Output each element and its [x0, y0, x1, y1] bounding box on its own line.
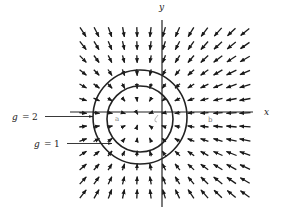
field-arrow-icon — [214, 139, 223, 142]
field-arrow-icon — [188, 27, 194, 36]
field-arrow-icon — [188, 139, 195, 142]
field-arrow-icon — [108, 190, 111, 199]
field-arrow-icon — [163, 41, 166, 50]
field-arrow-icon — [150, 190, 151, 199]
field-arrow-icon — [175, 177, 179, 184]
field-arrow-icon — [240, 126, 251, 127]
field-arrow-icon — [150, 151, 152, 156]
field-arrow-icon — [240, 84, 251, 87]
field-arrow-icon — [162, 70, 165, 76]
field-arrow-icon — [108, 84, 112, 89]
field-arrow-icon — [123, 177, 125, 185]
field-arrow-icon — [163, 190, 166, 199]
field-arrow-icon — [201, 151, 209, 155]
field-arrow-icon — [149, 98, 151, 102]
field-arrow-icon — [175, 126, 181, 127]
field-arrow-icon — [94, 84, 100, 88]
field-arrow-icon — [188, 126, 195, 127]
field-arrow-icon — [108, 177, 112, 185]
field-arrow-icon — [201, 177, 208, 184]
field-arrow-icon — [226, 126, 236, 127]
field-arrow-icon — [213, 126, 222, 127]
field-arrow-icon — [201, 190, 208, 198]
field-arrow-icon — [175, 190, 179, 199]
field-arrow-icon — [162, 164, 165, 170]
field-arrow-icon — [240, 99, 251, 101]
field-arrow-icon — [241, 29, 250, 36]
field-arrow-icon — [188, 177, 194, 184]
field-arrow-icon — [214, 56, 223, 63]
field-arrow-icon — [123, 27, 125, 37]
field-arrow-icon — [108, 41, 112, 49]
field-arrow-icon — [226, 139, 236, 141]
field-arrow-icon — [240, 113, 251, 114]
label-g2-var: g — [12, 112, 18, 122]
field-arrow-icon — [201, 164, 208, 170]
field-arrow-icon — [122, 151, 124, 156]
field-arrow-icon — [94, 177, 99, 184]
field-arrow-icon — [163, 27, 166, 37]
field-arrow-icon — [214, 98, 223, 100]
label-g2: g = 2 — [12, 112, 93, 122]
field-arrow-icon — [80, 177, 87, 184]
field-arrow-icon — [240, 178, 249, 184]
field-arrow-icon — [227, 42, 236, 49]
field-arrow-icon — [137, 138, 138, 142]
field-arrow-icon — [227, 56, 236, 62]
field-arrow-icon — [188, 151, 194, 155]
field-arrow-icon — [201, 28, 208, 37]
field-arrow-icon — [149, 125, 152, 127]
field-arrow-icon — [188, 70, 194, 76]
y-axis-label: y — [158, 2, 165, 12]
field-arrow-icon — [163, 55, 166, 62]
field-arrow-icon — [188, 190, 194, 199]
field-arrow-icon — [227, 191, 235, 198]
field-arrow-icon — [150, 138, 152, 142]
field-arrow-icon — [94, 151, 100, 156]
field-arrow-icon — [175, 41, 179, 49]
label-g1-var: g — [34, 139, 40, 149]
field-arrow-icon — [79, 98, 86, 100]
point-label-a: a — [115, 115, 119, 123]
field-arrow-icon — [240, 70, 250, 74]
field-arrow-icon — [94, 56, 99, 63]
x-axis-label: x — [264, 107, 269, 117]
field-arrow-icon — [80, 56, 87, 63]
field-arrow-icon — [201, 139, 209, 142]
field-arrow-icon — [94, 27, 99, 37]
field-arrow-icon — [80, 164, 87, 170]
field-arrow-icon — [201, 126, 209, 127]
origin-mark-icon — [155, 115, 158, 122]
label-g2-val: 2 — [32, 112, 38, 122]
field-arrow-icon — [150, 164, 151, 171]
field-arrow-icon — [240, 165, 250, 170]
field-arrow-icon — [241, 191, 250, 197]
field-arrow-icon — [80, 70, 87, 75]
field-arrow-icon — [162, 151, 165, 156]
field-arrow-icon — [214, 164, 223, 169]
field-arrow-icon — [80, 27, 86, 36]
vector-field-diagram: x y g = 2 g = 1 a b — [0, 0, 283, 216]
field-arrow-icon — [240, 139, 251, 141]
field-arrow-icon — [163, 177, 166, 185]
field-arrow-icon — [214, 190, 222, 198]
field-arrow-icon — [122, 164, 124, 171]
field-arrow-icon — [201, 70, 209, 75]
field-arrow-icon — [214, 28, 221, 36]
field-arrow-icon — [175, 138, 180, 141]
field-arrow-icon — [227, 164, 237, 169]
field-arrow-icon — [108, 138, 113, 141]
field-arrow-icon — [123, 190, 125, 199]
field-arrow-icon — [175, 98, 180, 101]
field-arrow-icon — [175, 70, 180, 76]
field-arrow-icon — [188, 113, 195, 114]
field-arrow-icon — [79, 113, 86, 114]
field-arrow-icon — [214, 70, 223, 75]
field-arrow-icon — [188, 84, 194, 88]
field-arrow-icon — [162, 84, 166, 89]
field-arrow-icon — [94, 70, 99, 76]
field-arrow-icon — [94, 164, 99, 170]
field-arrow-icon — [122, 98, 125, 101]
field-arrow-icon — [108, 27, 111, 37]
field-arrow-icon — [226, 99, 236, 101]
